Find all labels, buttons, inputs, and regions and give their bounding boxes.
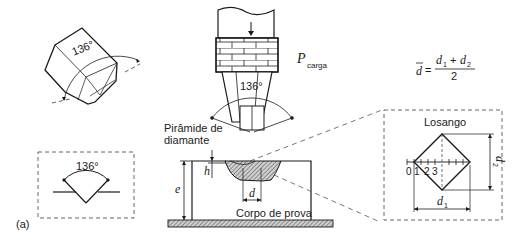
specimen-label: Corpo de prova bbox=[236, 207, 313, 219]
depth-symbol: h bbox=[204, 164, 210, 178]
formula-equals: = bbox=[425, 64, 431, 76]
scale-tick-0: 0 bbox=[406, 166, 412, 177]
d2-label: d 2 bbox=[492, 156, 507, 167]
indenter-label-line2: diamante bbox=[164, 134, 209, 146]
d1-subscript: 1 bbox=[444, 202, 448, 209]
scale-tick-1: 1 bbox=[414, 166, 420, 177]
formula-denominator: 2 bbox=[451, 70, 457, 82]
diagonal-symbol: d bbox=[249, 186, 256, 200]
vickers-hardness-diagram: 136° 136° (a) 136° P carga d = bbox=[0, 0, 527, 246]
formula-plus: + bbox=[450, 54, 456, 66]
angle-label-isometric: 136° bbox=[70, 38, 96, 58]
load-symbol: P bbox=[296, 51, 306, 66]
angle-detail bbox=[53, 170, 120, 203]
thickness-symbol: e bbox=[175, 182, 181, 196]
formula-d1-sub: 1 bbox=[443, 61, 447, 68]
losango-diamond bbox=[407, 134, 494, 212]
d2-subscript: 2 bbox=[492, 163, 499, 167]
indenter-column bbox=[211, 7, 293, 132]
d2-symbol: d bbox=[493, 156, 507, 163]
losango-title: Losango bbox=[424, 116, 466, 128]
d1-symbol: d bbox=[437, 194, 444, 208]
angle-label-detail: 136° bbox=[76, 160, 99, 172]
indenter-isometric-view bbox=[45, 28, 140, 104]
figure-label: (a) bbox=[16, 218, 29, 230]
mean-diagonal-formula: d = d 1 + d 2 2 bbox=[416, 53, 475, 82]
formula-lhs: d bbox=[416, 64, 423, 78]
formula-d1: d bbox=[436, 53, 443, 67]
indenter-label-line1: Pirâmide de bbox=[164, 122, 223, 134]
formula-d2-sub: 2 bbox=[467, 61, 471, 68]
scale-tick-2: 2 bbox=[424, 166, 430, 177]
scale-tick-3: 3 bbox=[432, 166, 438, 177]
angle-label-column: 136° bbox=[240, 80, 263, 92]
formula-d2: d bbox=[460, 53, 467, 67]
load-subscript: carga bbox=[307, 61, 328, 70]
